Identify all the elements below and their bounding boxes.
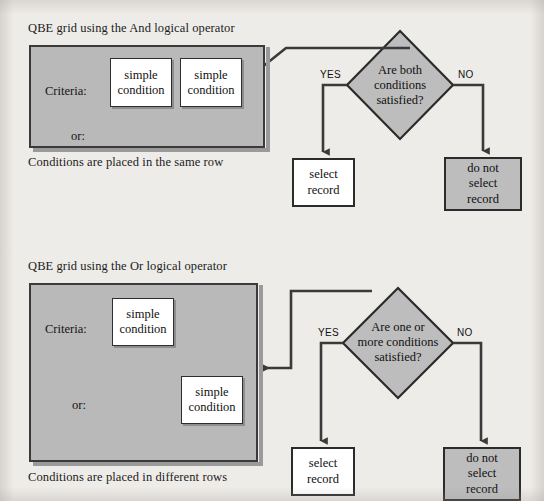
or-outcome-no-line2: select [468, 466, 496, 481]
or-yes-label: YES [318, 327, 339, 338]
or-condition-box-2-line2: condition [188, 400, 235, 415]
or-outcome-no-line3: record [466, 482, 498, 497]
or-outcome-yes-line2: record [307, 472, 339, 487]
and-no-label: NO [458, 69, 474, 80]
and-condition-box-1[interactable]: simple condition [110, 58, 172, 107]
and-outcome-no-line1: do not [467, 161, 499, 176]
or-outcome-do-not-select-record[interactable]: do not select record [443, 447, 521, 501]
or-grid-shadow-bottom [33, 462, 263, 466]
or-grid-shadow-right [259, 285, 263, 464]
and-grid-shadow-bottom [33, 148, 270, 152]
or-diagram-title: QBE grid using the Or logical operator [28, 259, 227, 274]
or-no-label: NO [457, 327, 473, 338]
and-outcome-select-record[interactable]: select record [292, 158, 355, 207]
no-branch-and [453, 85, 483, 151]
or-criteria-label: Criteria: [45, 322, 87, 337]
yes-branch-and [323, 85, 347, 152]
and-or-label: or: [71, 129, 85, 144]
and-outcome-do-not-select-record[interactable]: do not select record [444, 157, 522, 211]
and-outcome-yes-line1: select [309, 167, 337, 182]
and-condition-box-1-line1: simple [124, 68, 157, 83]
and-diagram-title: QBE grid using the And logical operator [28, 21, 235, 36]
or-or-label: or: [72, 398, 86, 413]
and-outcome-yes-line2: record [308, 183, 340, 198]
and-outcome-no-line2: select [469, 176, 497, 191]
and-yes-label: YES [320, 69, 341, 80]
or-condition-box-2[interactable]: simple condition [181, 376, 243, 424]
or-condition-box-2-line1: simple [195, 385, 228, 400]
and-outcome-no-line3: record [467, 192, 499, 207]
decision-diamond-or [343, 288, 453, 398]
or-condition-box-1-line2: condition [119, 322, 166, 337]
and-diagram-caption: Conditions are placed in the same row [28, 155, 223, 170]
or-condition-box-1[interactable]: simple condition [112, 298, 174, 346]
or-condition-box-1-line1: simple [126, 307, 159, 322]
no-branch-or [453, 343, 481, 441]
and-condition-box-2[interactable]: simple condition [180, 58, 242, 107]
and-criteria-label: Criteria: [45, 84, 87, 99]
diagram-page: QBE grid using the And logical operator … [0, 0, 544, 501]
and-condition-box-2-line1: simple [194, 68, 227, 83]
and-condition-box-2-line2: condition [187, 83, 234, 98]
or-outcome-yes-line1: select [309, 456, 337, 471]
or-outcome-no-line1: do not [466, 451, 498, 466]
and-condition-box-1-line2: condition [117, 83, 164, 98]
or-outcome-select-record[interactable]: select record [291, 447, 355, 496]
or-diagram-caption: Conditions are placed in different rows [28, 470, 227, 485]
and-grid-shadow-right [266, 47, 270, 150]
yes-branch-or [321, 343, 343, 441]
